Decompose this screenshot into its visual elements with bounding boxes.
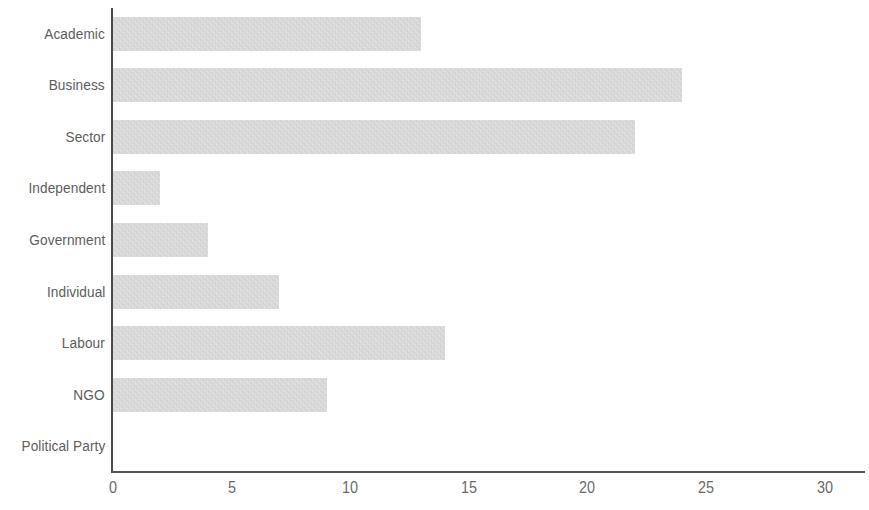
category-label: Political Party	[10, 437, 105, 455]
x-tick-label: 20	[579, 479, 597, 497]
chart-rows: AcademicBusinessSectorIndependentGovernm…	[0, 8, 869, 472]
chart-row: Business	[0, 60, 869, 112]
category-label: Government	[19, 231, 105, 249]
chart-row: Academic	[0, 8, 869, 60]
x-tick-label: 0	[109, 479, 118, 497]
category-label: Labour	[56, 334, 105, 352]
chart-row: NGO	[0, 369, 869, 421]
category-label: Independent	[18, 179, 105, 197]
bar	[113, 17, 421, 51]
category-label: Academic	[36, 25, 105, 43]
category-label: Individual	[39, 283, 106, 301]
bar	[113, 378, 327, 412]
bar	[113, 68, 682, 102]
x-tick-label: 25	[697, 479, 715, 497]
x-tick-label: 5	[227, 479, 236, 497]
category-label: Business	[41, 76, 105, 94]
chart-row: Political Party	[0, 420, 869, 472]
category-label: Sector	[60, 128, 105, 146]
bar	[113, 120, 635, 154]
chart-row: Government	[0, 214, 869, 266]
x-tick-label: 10	[341, 479, 359, 497]
chart-row: Sector	[0, 111, 869, 163]
bar	[113, 326, 445, 360]
bar	[113, 171, 160, 205]
x-tick-label: 15	[460, 479, 478, 497]
bar	[113, 223, 208, 257]
chart-row: Independent	[0, 163, 869, 215]
bar	[113, 275, 279, 309]
chart-row: Labour	[0, 317, 869, 369]
bar-chart: AcademicBusinessSectorIndependentGovernm…	[0, 0, 869, 510]
chart-row: Individual	[0, 266, 869, 318]
x-tick-label: 30	[816, 479, 834, 497]
x-axis-tick-labels: 051015202530	[0, 479, 869, 510]
category-label: NGO	[69, 386, 105, 404]
